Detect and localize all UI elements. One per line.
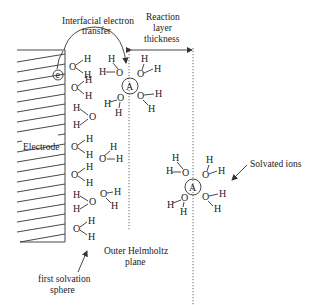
svg-text:H: H: [167, 199, 174, 210]
svg-text:H: H: [218, 165, 225, 176]
svg-text:H: H: [141, 53, 148, 64]
water-molecule: O H H: [100, 186, 121, 211]
svg-text:H: H: [85, 90, 92, 101]
svg-text:O: O: [71, 141, 78, 152]
svg-text:H: H: [73, 119, 80, 130]
svg-text:H: H: [166, 165, 173, 176]
svg-text:H: H: [154, 63, 161, 74]
interfacial-label-line1: Interfacial electron: [62, 16, 134, 26]
first-solvation-label-line2: sphere: [50, 285, 75, 295]
svg-text:H: H: [104, 98, 111, 109]
electrode-water-layer: O H H O H H H O H O H H: [69, 53, 123, 242]
svg-text:H: H: [148, 103, 155, 114]
svg-text:O: O: [181, 192, 188, 203]
reaction-layer-thickness: Reaction layer thickness: [131, 12, 192, 50]
svg-text:O: O: [116, 67, 123, 78]
svg-text:H: H: [86, 161, 93, 172]
ion-far-symbol: A: [189, 182, 197, 193]
ohp-label-line2: plane: [125, 257, 146, 267]
svg-text:H: H: [214, 203, 221, 214]
svg-text:O: O: [73, 223, 80, 234]
water-molecule: O H H: [99, 141, 123, 164]
svg-text:O: O: [89, 111, 96, 122]
svg-text:H: H: [86, 149, 93, 160]
svg-text:H: H: [110, 141, 117, 152]
svg-text:O: O: [100, 188, 107, 199]
electron-symbol: e: [56, 69, 61, 80]
svg-text:O: O: [137, 90, 144, 101]
electrode-label: Electrode: [23, 142, 59, 152]
svg-text:H: H: [88, 215, 95, 226]
svg-text:H: H: [88, 231, 95, 242]
interfacial-electron-transfer: Interfacial electron transfer: [62, 16, 134, 63]
first-solvation-sphere: first solvation sphere: [38, 251, 91, 295]
svg-text:H: H: [86, 133, 93, 144]
svg-text:H: H: [111, 200, 118, 211]
svg-text:H: H: [73, 203, 80, 214]
solvated-ions-callout: Solvated ions: [232, 159, 302, 180]
svg-text:O: O: [71, 82, 78, 93]
svg-text:H: H: [85, 74, 92, 85]
svg-text:O: O: [71, 169, 78, 180]
water-molecule: O H H: [71, 133, 93, 160]
svg-text:H: H: [180, 206, 187, 217]
svg-text:H: H: [115, 107, 122, 118]
interfacial-label-line2: transfer: [82, 26, 112, 36]
reaction-label-line3: thickness: [144, 34, 180, 44]
svg-text:H: H: [114, 186, 121, 197]
water-molecule: O H H: [71, 74, 92, 101]
ion-near-symbol: A: [126, 81, 134, 92]
svg-text:O: O: [137, 68, 144, 79]
water-molecule: O H H: [71, 161, 93, 188]
svg-text:H: H: [155, 88, 162, 99]
svg-text:H: H: [108, 53, 115, 64]
svg-text:H: H: [219, 188, 226, 199]
svg-text:H: H: [86, 177, 93, 188]
reaction-label-line1: Reaction: [146, 12, 180, 22]
svg-text:H: H: [206, 154, 213, 165]
svg-text:O: O: [202, 191, 209, 202]
svg-text:H: H: [73, 102, 80, 113]
ohp-label-line1: Outer Helmholtz: [104, 246, 168, 256]
electrochemical-interface-diagram: Electrode e Interfacial electron transfe…: [0, 0, 310, 305]
svg-text:O: O: [202, 169, 209, 180]
solvated-ion-far: A H H O H O H O H H O H H: [166, 152, 226, 217]
water-molecule: O H H: [73, 215, 95, 242]
svg-text:H: H: [84, 53, 91, 64]
water-molecule: H O H: [73, 189, 96, 214]
reaction-label-line2: layer: [153, 23, 173, 33]
first-solvation-label-line1: first solvation: [38, 274, 91, 284]
svg-text:H: H: [99, 66, 106, 77]
svg-text:H: H: [73, 189, 80, 200]
svg-text:O: O: [89, 196, 96, 207]
water-molecule: H O H: [73, 102, 96, 130]
svg-text:O: O: [117, 92, 124, 103]
svg-text:H: H: [172, 152, 179, 163]
svg-text:H: H: [116, 153, 123, 164]
solvated-ion-near: A H H O H O H O H H O H H: [99, 53, 162, 118]
solvated-ions-label: Solvated ions: [250, 159, 302, 169]
svg-text:O: O: [69, 61, 76, 72]
